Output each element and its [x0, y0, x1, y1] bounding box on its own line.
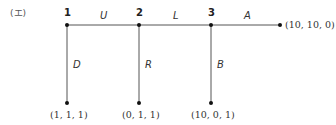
edge-r-label: R — [145, 60, 152, 70]
panel-label: (エ) — [10, 9, 26, 18]
endpoint-1-dot — [65, 101, 69, 105]
endpoint-3-dot — [209, 101, 213, 105]
endpoint-3-label: (10, 0, 1) — [191, 110, 235, 120]
node-1-dot — [65, 23, 69, 27]
node-2-dot — [137, 23, 141, 27]
node-3-label: 3 — [208, 8, 215, 18]
node-3-dot — [209, 23, 213, 27]
node-1-label: 1 — [64, 8, 71, 18]
edge-b-label: B — [217, 60, 224, 70]
endpoint-2-label: (0, 1, 1) — [122, 110, 160, 120]
edge-a-label: A — [244, 11, 251, 21]
edge-u-label: U — [100, 11, 107, 21]
endpoint-2-dot — [137, 101, 141, 105]
endpoint-1-label: (1, 1, 1) — [50, 110, 88, 120]
endpoint-right-label: (10, 10, 0) — [285, 20, 335, 30]
edge-d-label: D — [73, 60, 81, 70]
endpoint-right-dot — [278, 23, 282, 27]
edge-l-label: L — [173, 11, 179, 21]
node-2-label: 2 — [136, 8, 143, 18]
